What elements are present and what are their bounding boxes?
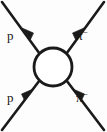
feynman-diagram: p π− p π− <box>0 0 107 132</box>
interaction-blob <box>34 48 72 86</box>
label-outgoing-pion-symbol: π <box>76 28 83 43</box>
feynman-diagram-canvas <box>0 0 107 132</box>
label-outgoing-proton: p <box>7 28 14 42</box>
label-incoming-proton-symbol: p <box>7 90 14 105</box>
label-incoming-pion-symbol: π <box>76 90 83 105</box>
label-outgoing-pion-charge: − <box>83 27 88 37</box>
label-outgoing-proton-symbol: p <box>7 28 14 43</box>
label-incoming-pion: π− <box>76 90 87 104</box>
leg-line-incoming-pion <box>67 81 105 131</box>
label-incoming-proton: p <box>7 90 14 104</box>
label-incoming-pion-charge: − <box>83 89 88 99</box>
label-outgoing-pion: π− <box>76 28 87 42</box>
